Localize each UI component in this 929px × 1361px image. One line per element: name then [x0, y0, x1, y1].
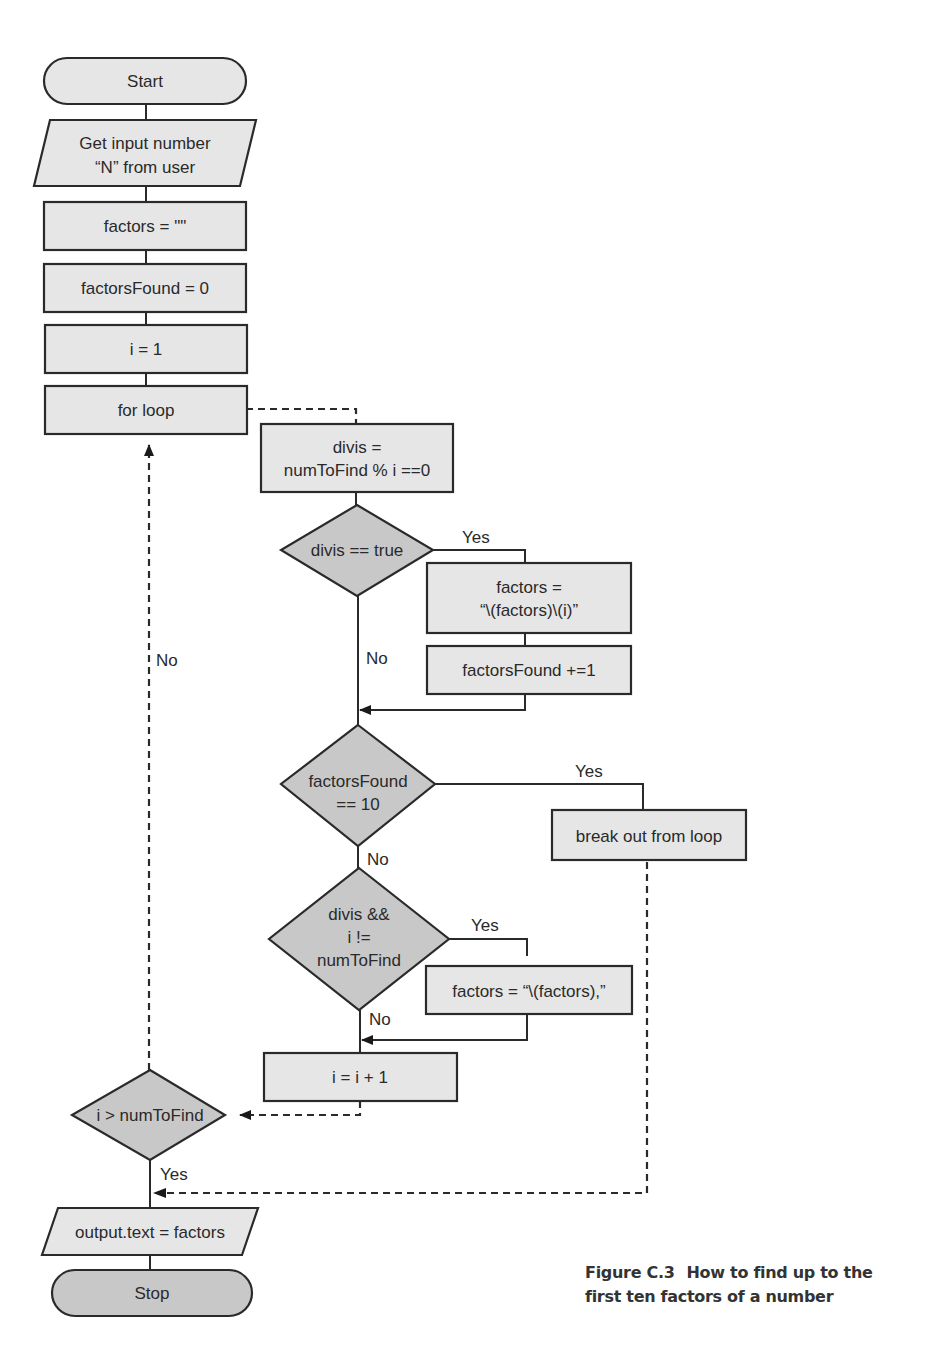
svg-text:divis &&: divis &&: [328, 905, 390, 924]
for-loop-process: for loop: [45, 386, 247, 434]
figure-caption: Figure C.3How to find up to the first te…: [585, 1261, 925, 1309]
svg-text:output.text = factors: output.text = factors: [75, 1223, 225, 1242]
stop-terminator: Stop: [52, 1270, 252, 1316]
svg-text:factors = “\(factors),”: factors = “\(factors),”: [452, 982, 606, 1001]
svg-text:i = 1: i = 1: [130, 340, 163, 359]
edge-label-found-no: No: [367, 850, 389, 869]
append-comma-process: factors = “\(factors),”: [426, 966, 632, 1014]
svg-text:i = i + 1: i = i + 1: [332, 1068, 388, 1087]
edge-label-divis-no: No: [366, 649, 388, 668]
factors-init-process: factors = "": [44, 202, 246, 250]
svg-text:Stop: Stop: [135, 1284, 170, 1303]
caption-text-1: How to find up to the: [687, 1263, 873, 1282]
svg-text:== 10: == 10: [336, 795, 380, 814]
divis-check-decision: divis == true: [281, 505, 433, 596]
svg-text:factorsFound = 0: factorsFound = 0: [81, 279, 209, 298]
increment-found-process: factorsFound +=1: [427, 646, 631, 694]
svg-text:Get input number: Get input number: [79, 134, 211, 153]
loop-check-decision: i > numToFind: [72, 1070, 225, 1160]
svg-text:for loop: for loop: [118, 401, 175, 420]
svg-text:i !=: i !=: [347, 928, 370, 947]
comma-check-decision: divis && i != numToFind: [269, 868, 449, 1010]
edge-label-found-yes: Yes: [575, 762, 603, 781]
factors-found-init-process: factorsFound = 0: [44, 264, 246, 312]
figure-number: Figure C.3: [585, 1263, 675, 1282]
edge-label-loop-no: No: [156, 651, 178, 670]
svg-text:“\(factors)\(i)”: “\(factors)\(i)”: [480, 601, 579, 620]
edge-label-comma-yes: Yes: [471, 916, 499, 935]
divis-calc-process: divis = numToFind % i ==0: [261, 424, 453, 492]
svg-text:“N” from user: “N” from user: [95, 158, 195, 177]
start-terminator: Start: [44, 58, 246, 104]
svg-text:break out from loop: break out from loop: [576, 827, 722, 846]
svg-text:divis == true: divis == true: [311, 541, 404, 560]
append-factor-process: factors = “\(factors)\(i)”: [427, 563, 631, 633]
svg-text:numToFind: numToFind: [317, 951, 401, 970]
edge-label-comma-no: No: [369, 1010, 391, 1029]
flowchart: Start Get input number “N” from user fac…: [0, 0, 929, 1361]
svg-text:divis =: divis =: [333, 438, 382, 457]
found-check-decision: factorsFound == 10: [281, 725, 435, 846]
break-loop-process: break out from loop: [552, 810, 746, 860]
get-input-parallelogram: Get input number “N” from user: [34, 120, 256, 186]
svg-text:factorsFound: factorsFound: [308, 772, 407, 791]
output-parallelogram: output.text = factors: [42, 1208, 258, 1255]
svg-text:Start: Start: [127, 72, 163, 91]
edge-label-loop-yes: Yes: [160, 1165, 188, 1184]
i-init-process: i = 1: [45, 325, 247, 373]
svg-text:factors = "": factors = "": [104, 217, 186, 236]
svg-text:i > numToFind: i > numToFind: [96, 1106, 203, 1125]
svg-text:numToFind % i ==0: numToFind % i ==0: [284, 461, 430, 480]
increment-i-process: i = i + 1: [264, 1053, 457, 1101]
caption-line-2: first ten factors of a number: [585, 1285, 925, 1309]
edge-label-divis-yes: Yes: [462, 528, 490, 547]
svg-text:factorsFound +=1: factorsFound +=1: [462, 661, 595, 680]
caption-line-1: Figure C.3How to find up to the: [585, 1261, 925, 1285]
svg-text:factors =: factors =: [496, 578, 562, 597]
